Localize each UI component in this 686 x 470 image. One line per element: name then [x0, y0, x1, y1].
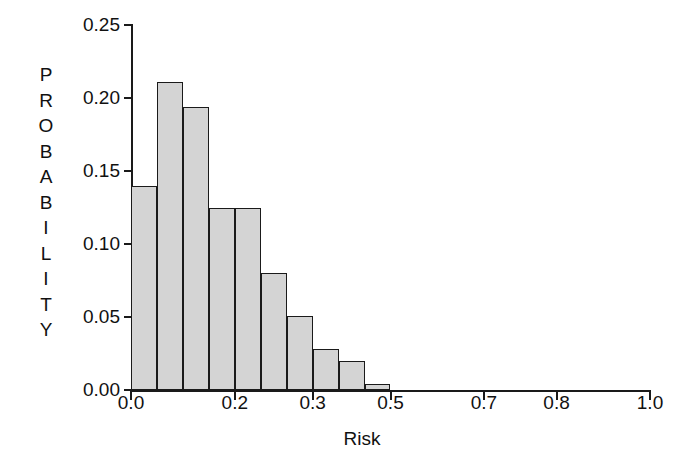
- y-axis-title-letter: B: [40, 190, 53, 216]
- bar: [157, 82, 183, 390]
- bar: [209, 208, 235, 391]
- bar: [339, 361, 365, 390]
- y-axis-title-letter: I: [43, 266, 48, 292]
- y-axis-title-letter: A: [40, 164, 53, 190]
- y-axis-tick-mark: [124, 24, 133, 26]
- bar: [313, 349, 339, 390]
- x-axis-tick-label: 0.7: [471, 392, 497, 414]
- y-axis-title-letter: O: [39, 113, 54, 139]
- y-axis-title-letter: P: [40, 62, 53, 88]
- y-axis-tick-label: 0.20: [58, 87, 120, 109]
- x-axis-title-text: Risk: [344, 428, 381, 450]
- x-axis-title: Risk: [0, 428, 686, 450]
- y-axis-tick-label: 0.00: [58, 379, 120, 401]
- y-axis-title: PROBABILITY: [34, 62, 58, 343]
- histogram-figure: PROBABILITY 0.000.050.100.150.200.25 0.0…: [0, 0, 686, 470]
- bar: [131, 186, 157, 390]
- y-axis-tick-label: 0.05: [58, 306, 120, 328]
- y-axis-title-letter: B: [40, 139, 53, 165]
- x-axis-tick-label: 0.2: [222, 392, 248, 414]
- x-axis-tick-label: 0.0: [118, 392, 144, 414]
- bar: [365, 384, 391, 390]
- y-axis-title-letter: I: [43, 215, 48, 241]
- y-axis-tick-mark: [124, 170, 133, 172]
- y-axis-tick-labels: 0.000.050.100.150.200.25: [58, 0, 120, 470]
- x-axis-tick-label: 0.5: [377, 392, 403, 414]
- y-axis-tick-mark: [124, 97, 133, 99]
- y-axis-title-letter: Y: [40, 317, 53, 343]
- bar: [287, 316, 313, 390]
- y-axis-tick-label: 0.10: [58, 233, 120, 255]
- x-axis-tick-label: 0.3: [299, 392, 325, 414]
- x-axis-tick-label: 0.8: [543, 392, 569, 414]
- y-axis-tick-label: 0.15: [58, 160, 120, 182]
- y-axis-title-letter: R: [39, 88, 53, 114]
- y-axis-title-letter: L: [41, 241, 52, 267]
- y-axis-title-letter: T: [40, 292, 52, 318]
- bar: [183, 107, 209, 390]
- y-axis-tick-label: 0.25: [58, 14, 120, 36]
- bar: [261, 273, 287, 390]
- x-axis-tick-label: 1.0: [637, 392, 663, 414]
- plot-area: [131, 25, 650, 392]
- x-axis-tick-labels: 0.00.20.30.50.70.81.0: [131, 392, 650, 422]
- bar: [235, 208, 261, 391]
